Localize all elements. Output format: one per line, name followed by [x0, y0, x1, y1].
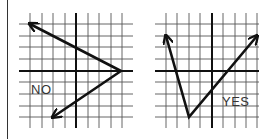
graph-canvas: [0, 0, 259, 139]
graph-no-function: [19, 13, 133, 128]
label-no: NO: [31, 83, 52, 96]
label-yes: YES: [222, 95, 250, 108]
graph-yes-function: [155, 13, 259, 128]
